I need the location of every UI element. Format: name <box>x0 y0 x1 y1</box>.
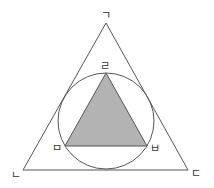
vertex-label-bieup: ㅂ <box>150 143 160 154</box>
vertex-label-mieum: ㅁ <box>52 143 62 154</box>
vertex-label-digeut: ㄷ <box>191 168 201 179</box>
vertex-label-giyeok: ㄱ <box>101 10 111 21</box>
inner-shaded-triangle <box>65 73 147 146</box>
vertex-label-nieun: ㄴ <box>11 170 21 181</box>
vertex-label-rieul: ㄹ <box>100 61 110 72</box>
geometry-figure <box>0 0 214 188</box>
